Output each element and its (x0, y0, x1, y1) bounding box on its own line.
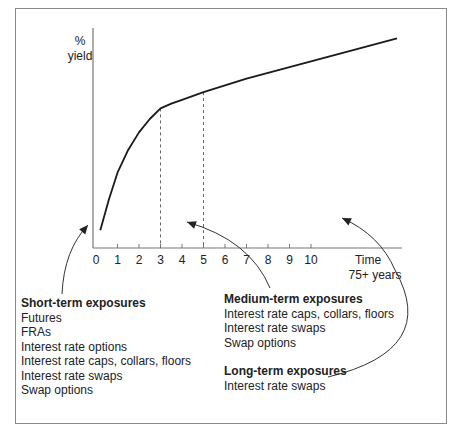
yield-curve-line (100, 38, 397, 230)
axes (93, 28, 402, 248)
dashed-markers (161, 92, 204, 248)
yield-curve-group (100, 38, 397, 230)
short-term-group: Short-term exposures Futures FRAs Intere… (21, 296, 191, 398)
short-term-item: Futures (21, 311, 191, 326)
short-term-item: Interest rate options (21, 340, 191, 355)
x-tick-label: 0 (93, 253, 100, 267)
x-tick-label: 3 (157, 253, 164, 267)
long-term-title: Long-term exposures (224, 364, 347, 379)
x-tick-label: 9 (286, 253, 293, 267)
medium-term-title: Medium-term exposures (224, 292, 394, 307)
x-tick-label: 2 (136, 253, 143, 267)
y-axis-label-yield: yield (68, 49, 93, 63)
long-term-item: Interest rate swaps (224, 379, 347, 394)
x-axis-label-years: 75+ years (348, 268, 401, 282)
short-term-item: Interest rate swaps (21, 369, 191, 384)
x-tick-label: 1 (114, 253, 121, 267)
x-axis-label-time: Time (355, 253, 382, 267)
medium-term-item: Interest rate caps, collars, floors (224, 307, 394, 322)
medium-term-item: Swap options (224, 336, 394, 351)
short-term-title: Short-term exposures (21, 296, 191, 311)
short-term-item: FRAs (21, 325, 191, 340)
medium-term-item: Interest rate swaps (224, 321, 394, 336)
short-term-item: Swap options (21, 383, 191, 398)
x-tick-label: 7 (243, 253, 250, 267)
y-axis-label-percent: % (75, 34, 86, 48)
arrowhead-icon (187, 221, 197, 229)
annotation-arrow-line (62, 225, 88, 294)
x-tick-label: 6 (222, 253, 229, 267)
medium-term-group: Medium-term exposures Interest rate caps… (224, 292, 394, 350)
arrowhead-icon (79, 225, 88, 234)
long-term-group: Long-term exposures Interest rate swaps (224, 364, 347, 393)
x-tick-label: 10 (304, 253, 318, 267)
short-term-item: Interest rate caps, collars, floors (21, 354, 191, 369)
x-tick-label: 5 (200, 253, 207, 267)
x-tick-label: 8 (265, 253, 272, 267)
x-tick-label: 4 (179, 253, 186, 267)
